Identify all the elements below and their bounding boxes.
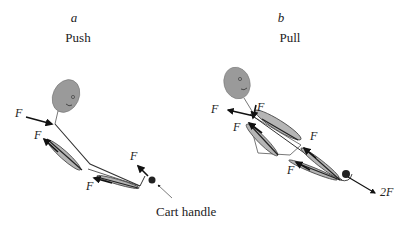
force-label: F [33, 128, 42, 142]
force-arrow-shoulder [26, 117, 52, 124]
force-label: F [256, 100, 265, 114]
panel-a-push: a Push F F F F Cart handle [14, 10, 217, 219]
annotation-pointer [158, 185, 172, 198]
force-label: F [232, 120, 241, 134]
force-label: F [309, 129, 318, 143]
panel-b-title: Pull [280, 30, 301, 45]
neck-line [55, 111, 58, 124]
panel-b-pull: b Pull F F F F F [210, 10, 394, 199]
force-label: F [85, 179, 94, 193]
panel-b-letter: b [278, 10, 285, 25]
cart-handle-dot [149, 177, 156, 184]
force-label: F [210, 102, 219, 116]
push-pull-diagram: a Push F F F F Cart handle [0, 0, 406, 228]
force-label: F [129, 149, 138, 163]
panel-a-letter: a [71, 10, 78, 25]
force-arrow-neck [228, 110, 254, 116]
head-figure-a [47, 75, 85, 117]
panel-a-title: Push [65, 30, 91, 45]
force-label: F [286, 163, 295, 177]
cart-handle-label: Cart handle [156, 204, 217, 219]
head-figure-b [220, 64, 253, 102]
cart-handle-dot [342, 170, 350, 178]
resultant-force-label: 2F [380, 185, 394, 199]
force-label: F [14, 106, 23, 120]
force-arrow-handle [138, 166, 148, 176]
resultant-force-arrow [348, 177, 375, 193]
